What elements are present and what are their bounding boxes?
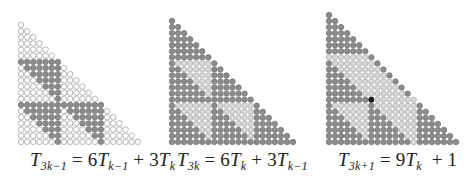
- dot: [350, 73, 355, 78]
- dot: [218, 103, 223, 108]
- triangle-dot-array-t3k: [158, 0, 308, 148]
- dot: [49, 102, 55, 108]
- dot: [399, 97, 404, 102]
- dot: [375, 61, 380, 66]
- dot: [43, 78, 49, 84]
- dot: [278, 139, 283, 144]
- dot: [24, 108, 30, 114]
- dot: [441, 139, 446, 144]
- dot: [18, 96, 24, 102]
- dot: [381, 73, 386, 78]
- dot: [55, 114, 61, 120]
- dot: [423, 133, 428, 138]
- dot: [67, 127, 73, 133]
- dot: [369, 103, 374, 108]
- dot: [181, 133, 186, 138]
- dot: [369, 73, 374, 78]
- dot: [350, 91, 355, 96]
- dot: [399, 121, 404, 126]
- dot: [49, 133, 55, 139]
- dot: [236, 85, 241, 90]
- dot: [411, 103, 416, 108]
- dot: [260, 133, 265, 138]
- dot: [357, 127, 362, 132]
- dot: [200, 139, 205, 144]
- dot: [338, 97, 343, 102]
- dot: [74, 90, 80, 96]
- dot: [98, 102, 104, 108]
- panel-3k-plus-1: T3k+1 = 9Tk + 1: [308, 0, 473, 185]
- dot: [31, 108, 37, 114]
- dot: [218, 67, 223, 72]
- dot: [43, 71, 49, 77]
- dot: [236, 103, 241, 108]
- dot: [187, 115, 192, 120]
- dot: [92, 139, 98, 145]
- dot: [441, 133, 446, 138]
- dot: [18, 28, 24, 34]
- dot: [435, 121, 440, 126]
- dot: [181, 103, 186, 108]
- dot: [61, 108, 67, 114]
- dot: [37, 121, 43, 127]
- dot: [74, 78, 80, 84]
- dot: [193, 109, 198, 114]
- dot: [92, 133, 98, 139]
- dot: [18, 41, 24, 47]
- dot: [92, 96, 98, 102]
- dot: [169, 97, 174, 102]
- dot: [31, 65, 37, 71]
- dot: [55, 84, 61, 90]
- dot: [338, 55, 343, 60]
- dot: [405, 121, 410, 126]
- dot: [86, 127, 92, 133]
- dot: [375, 103, 380, 108]
- dot: [248, 127, 253, 132]
- dot: [230, 103, 235, 108]
- dot: [31, 102, 37, 108]
- dot: [344, 85, 349, 90]
- dot: [417, 109, 422, 114]
- dot: [393, 85, 398, 90]
- dot: [43, 102, 49, 108]
- dot: [31, 133, 37, 139]
- dot: [338, 91, 343, 96]
- dot: [24, 59, 30, 65]
- dot: [218, 121, 223, 126]
- dot: [399, 91, 404, 96]
- dot: [49, 65, 55, 71]
- dot: [224, 103, 229, 108]
- dot: [393, 139, 398, 144]
- dot: [332, 127, 337, 132]
- dot: [74, 139, 80, 145]
- dot: [212, 139, 217, 144]
- dot: [212, 79, 217, 84]
- dot: [187, 61, 192, 66]
- dot: [212, 73, 217, 78]
- dot: [338, 133, 343, 138]
- dot: [344, 61, 349, 66]
- dot: [92, 114, 98, 120]
- dot: [206, 139, 211, 144]
- dot: [344, 121, 349, 126]
- dot: [104, 121, 110, 127]
- dot: [230, 133, 235, 138]
- dot: [417, 127, 422, 132]
- dot: [80, 114, 86, 120]
- dot: [200, 121, 205, 126]
- dot: [326, 115, 331, 120]
- dot: [357, 73, 362, 78]
- dot: [381, 97, 386, 102]
- dot: [230, 109, 235, 114]
- dot: [242, 103, 247, 108]
- dot: [175, 109, 180, 114]
- dot: [369, 67, 374, 72]
- dot: [200, 97, 205, 102]
- dot: [429, 133, 434, 138]
- dot: [98, 108, 104, 114]
- dot: [86, 96, 92, 102]
- dot: [37, 114, 43, 120]
- dot: [200, 115, 205, 120]
- dot: [230, 97, 235, 102]
- triangle-dot-array-t3k-plus-1: [308, 0, 473, 148]
